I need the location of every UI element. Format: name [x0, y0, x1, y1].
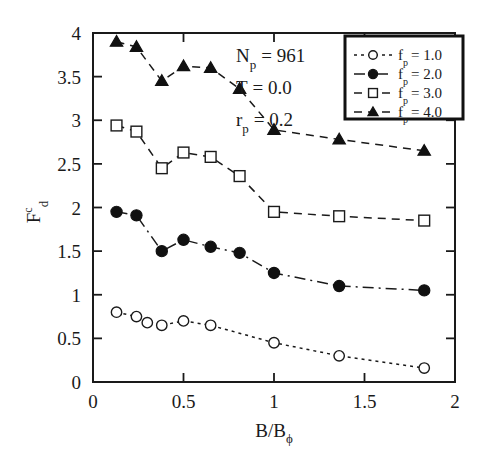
x-tick-label: 1	[269, 391, 279, 412]
y-axis-title: Fcd	[21, 200, 51, 223]
chart-figure: 00.511.522.533.54 00.511.52 Fcd B/Bϕ Np=…	[0, 0, 483, 461]
x-axis-title-subscript: ϕ	[286, 431, 293, 446]
data-marker-filled-triangle	[177, 60, 189, 71]
x-axis-title-main: B/B	[255, 420, 286, 441]
data-marker-filled-circle	[334, 280, 345, 291]
data-marker-open-circle	[269, 338, 279, 348]
data-marker-filled-circle	[268, 267, 279, 278]
legend-value: = 1.0	[411, 47, 442, 63]
legend-subscript: p	[403, 95, 408, 106]
data-marker-filled-triangle	[110, 36, 122, 47]
data-series	[111, 120, 429, 226]
y-axis-title-main: F	[23, 213, 44, 224]
data-marker-open-square	[419, 215, 430, 226]
data-marker-open-square	[369, 89, 378, 98]
annotation-line: T= 0.0	[236, 77, 292, 98]
data-marker-open-circle	[369, 51, 378, 60]
y-axis-title-superscript: c	[21, 207, 35, 212]
data-marker-filled-circle	[419, 285, 430, 296]
svg-text:B/Bϕ: B/Bϕ	[255, 420, 293, 446]
data-marker-open-square	[111, 120, 122, 131]
y-tick-label: 0	[72, 372, 82, 393]
y-tick-label: 1.5	[57, 241, 81, 262]
data-marker-open-circle	[111, 307, 121, 317]
y-tick-label: 3.5	[57, 67, 81, 88]
annotation-subscript: p	[250, 57, 257, 72]
data-marker-filled-circle	[131, 210, 142, 221]
x-tick-label: 0	[88, 391, 98, 412]
legend-value: = 3.0	[411, 85, 442, 101]
data-marker-filled-circle	[178, 234, 189, 245]
data-marker-open-square	[234, 171, 245, 182]
annotation-symbol: T	[236, 77, 248, 98]
data-marker-open-circle	[178, 316, 188, 326]
annotation-value: = 961	[261, 45, 305, 66]
data-marker-filled-circle	[205, 241, 216, 252]
x-tick-label: 1.5	[353, 391, 377, 412]
data-marker-open-square	[156, 163, 167, 174]
chart-annotations: Np= 961T= 0.0rp= 0.2	[236, 45, 305, 136]
data-marker-open-circle	[334, 351, 344, 361]
data-marker-open-square	[205, 151, 216, 162]
chart-plot-svg: 00.511.522.533.54 00.511.52 Fcd B/Bϕ Np=…	[0, 0, 483, 461]
x-tick-label: 2	[450, 391, 460, 412]
data-marker-open-circle	[419, 363, 429, 373]
legend-subscript: p	[403, 114, 408, 125]
y-tick-label: 2	[72, 198, 82, 219]
data-marker-filled-circle	[368, 69, 377, 78]
legend-subscript: p	[403, 57, 408, 68]
x-axis-tick-labels: 00.511.52	[88, 391, 460, 412]
svg-text:Fcd: Fcd	[21, 200, 51, 223]
annotation-symbol: N	[236, 45, 250, 66]
legend-value: = 2.0	[411, 66, 442, 82]
data-marker-open-square	[131, 126, 142, 137]
x-axis-title: B/Bϕ	[255, 420, 293, 446]
annotation-subscript: p	[242, 121, 249, 136]
x-tick-label: 0.5	[172, 391, 196, 412]
y-tick-label: 0.5	[57, 328, 81, 349]
y-tick-label: 4	[72, 23, 82, 44]
data-marker-open-square	[178, 147, 189, 158]
data-marker-filled-circle	[156, 246, 167, 257]
annotation-line: Np= 961	[236, 45, 305, 72]
data-marker-open-circle	[142, 317, 152, 327]
data-series	[111, 206, 430, 296]
data-marker-filled-circle	[111, 206, 122, 217]
y-axis-title-subscript: d	[36, 200, 51, 207]
y-axis-tick-labels: 00.511.522.533.54	[57, 23, 81, 393]
data-series	[111, 307, 429, 373]
legend-value: = 4.0	[411, 104, 442, 120]
data-marker-open-square	[334, 211, 345, 222]
data-marker-open-circle	[157, 320, 167, 330]
legend-subscript: p	[403, 76, 408, 87]
y-tick-label: 2.5	[57, 154, 81, 175]
data-marker-filled-circle	[234, 247, 245, 258]
data-marker-open-square	[269, 206, 280, 217]
annotation-value: = 0.2	[254, 109, 293, 130]
y-tick-label: 3	[72, 110, 82, 131]
y-tick-label: 1	[72, 285, 82, 306]
data-marker-open-circle	[205, 320, 215, 330]
chart-legend: fp= 1.0fp= 2.0fp= 3.0fp= 4.0	[345, 36, 463, 125]
data-marker-open-circle	[131, 311, 141, 321]
annotation-value: = 0.0	[253, 77, 292, 98]
